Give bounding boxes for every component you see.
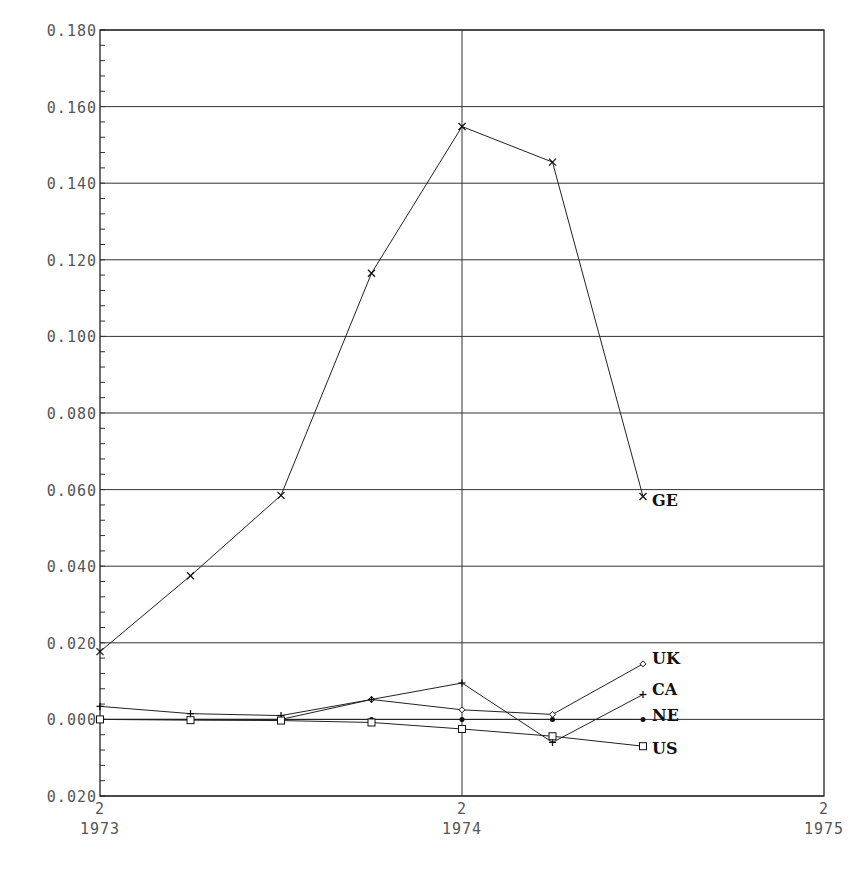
y-tick-label: 0.140 bbox=[47, 175, 97, 193]
y-minor-ticks bbox=[100, 30, 105, 796]
x-marker-icon bbox=[368, 270, 375, 277]
x-tick-quarter: 2 bbox=[457, 800, 467, 818]
diamond-marker-icon bbox=[550, 711, 556, 717]
x-tick-year: 1974 bbox=[442, 820, 482, 838]
x-axis-tick-labels: 219732197421975 bbox=[80, 800, 844, 838]
square-marker-icon bbox=[640, 743, 647, 750]
x-tick-year: 1975 bbox=[804, 820, 844, 838]
series-uk: UK bbox=[97, 649, 681, 723]
series-ne: NE bbox=[98, 706, 679, 725]
x-tick-year: 1973 bbox=[80, 820, 120, 838]
y-tick-label: 0.000 bbox=[47, 711, 97, 729]
dot-marker-icon bbox=[460, 717, 465, 722]
series-ca: CA bbox=[97, 680, 678, 746]
x-marker-icon bbox=[187, 572, 194, 579]
y-tick-label: 0.060 bbox=[47, 482, 97, 500]
square-marker-icon bbox=[97, 716, 104, 723]
series-line bbox=[100, 127, 643, 652]
x-marker-icon bbox=[278, 492, 285, 499]
series-line bbox=[100, 664, 643, 720]
series-ge: GE bbox=[97, 123, 678, 655]
x-tick-quarter: 2 bbox=[95, 800, 105, 818]
square-marker-icon bbox=[187, 717, 194, 724]
x-marker-icon bbox=[640, 493, 647, 500]
series-line bbox=[100, 683, 643, 742]
y-axis-tick-labels: 0.1800.1600.1400.1200.1000.0800.0600.040… bbox=[47, 22, 97, 806]
dot-marker-icon bbox=[641, 717, 646, 722]
series-label-uk: UK bbox=[652, 649, 681, 668]
diamond-marker-icon bbox=[640, 661, 646, 667]
plus-marker-icon bbox=[640, 691, 647, 698]
square-marker-icon bbox=[368, 719, 375, 726]
square-marker-icon bbox=[549, 733, 556, 740]
y-tick-label: 0.160 bbox=[47, 99, 97, 117]
plus-marker-icon bbox=[368, 696, 375, 703]
plus-marker-icon bbox=[187, 710, 194, 717]
y-tick-label: 0.080 bbox=[47, 405, 97, 423]
y-tick-label: 0.120 bbox=[47, 252, 97, 270]
y-tick-label: 0.040 bbox=[47, 558, 97, 576]
series-label-ge: GE bbox=[652, 491, 678, 510]
x-tick-quarter: 2 bbox=[819, 800, 829, 818]
dot-marker-icon bbox=[550, 717, 555, 722]
diamond-marker-icon bbox=[459, 707, 465, 713]
x-marker-icon bbox=[549, 159, 556, 166]
series-label-ne: NE bbox=[652, 706, 679, 725]
y-tick-label: 0.100 bbox=[47, 328, 97, 346]
square-marker-icon bbox=[278, 717, 285, 724]
series-group: GEUKCANEUS bbox=[97, 123, 681, 758]
square-marker-icon bbox=[459, 725, 466, 732]
y-tick-label: 0.180 bbox=[47, 22, 97, 40]
y-tick-label: 0.020 bbox=[47, 788, 97, 806]
y-tick-label: 0.020 bbox=[47, 635, 97, 653]
plus-marker-icon bbox=[459, 680, 466, 687]
series-label-us: US bbox=[652, 739, 678, 758]
series-label-ca: CA bbox=[652, 680, 678, 699]
line-chart: 0.1800.1600.1400.1200.1000.0800.0600.040… bbox=[0, 0, 861, 876]
